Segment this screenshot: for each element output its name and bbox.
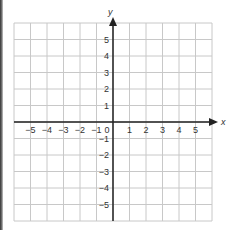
y-axis-label: y	[107, 7, 113, 17]
y-tick-label: −3	[99, 167, 109, 177]
y-tick-label: 5	[104, 35, 109, 45]
x-tick-label: −2	[75, 125, 85, 135]
y-tick-label: 4	[104, 51, 109, 61]
x-axis-label: x	[220, 117, 226, 127]
x-tick-label: 4	[176, 125, 181, 135]
y-tick-label: 1	[104, 101, 109, 111]
x-tick-label: 3	[160, 125, 165, 135]
x-tick-label: −4	[42, 125, 52, 135]
y-tick-label: −5	[99, 200, 109, 210]
x-tick-label: 2	[143, 125, 148, 135]
x-tick-label: −3	[58, 125, 68, 135]
y-tick-label: −2	[99, 150, 109, 160]
x-tick-label: −5	[25, 125, 35, 135]
y-tick-label: 2	[104, 84, 109, 94]
coordinate-grid: xy0−5−4−3−2−11234554321−1−2−3−4−5	[0, 0, 228, 230]
y-axis-arrow-icon	[109, 17, 117, 26]
x-tick-label: 1	[127, 125, 132, 135]
y-tick-label: 3	[104, 68, 109, 78]
x-axis-arrow-icon	[209, 118, 218, 126]
y-tick-label: −1	[99, 134, 109, 144]
x-tick-label: 5	[193, 125, 198, 135]
y-tick-label: −4	[99, 183, 109, 193]
